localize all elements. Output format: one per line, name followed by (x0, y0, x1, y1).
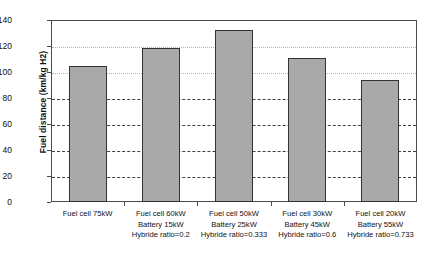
x-label-line: Battery 55kW (346, 220, 415, 231)
bars-layer (51, 20, 417, 202)
y-tick-label-100: 100 (0, 68, 12, 77)
x-label-line: Battery 15kW (126, 220, 195, 231)
y-tick-label-0: 0 (0, 198, 12, 207)
x-tick-mark-1 (124, 202, 125, 206)
x-label-line: Fuel cell 75kW (53, 209, 122, 220)
x-label-line: Fuel cell 50kW (199, 209, 268, 220)
x-label-line: Fuel cell 60kW (126, 209, 195, 220)
bar-chart-figure: Fuel distance (km/kg H2) 020406080100120… (0, 0, 434, 255)
x-label-5: Fuel cell 20kWBattery 55kWHybride ratio=… (344, 209, 417, 253)
x-label-line: Fuel cell 20kW (346, 209, 415, 220)
x-label-line: Battery 45kW (273, 220, 342, 231)
x-tick-mark-3 (271, 202, 272, 206)
y-tick-label-60: 60 (0, 120, 12, 129)
y-tick-label-80: 80 (0, 94, 12, 103)
y-tick-label-140: 140 (0, 16, 12, 25)
bar-2 (142, 48, 180, 202)
x-label-line: Fuel cell 30kW (273, 209, 342, 220)
bar-3 (215, 30, 253, 202)
x-label-line: Hybride ratio=0.333 (199, 230, 268, 241)
x-axis-labels: Fuel cell 75kWFuel cell 60kWBattery 15kW… (51, 209, 417, 253)
y-tick-mark-0 (47, 202, 51, 203)
x-label-line: Battery 25kW (199, 220, 268, 231)
x-label-1: Fuel cell 75kW (51, 209, 124, 253)
x-label-line: Hybride ratio=0.733 (346, 230, 415, 241)
bar-4 (288, 58, 326, 202)
bar-1 (69, 66, 107, 202)
x-tick-mark-2 (197, 202, 198, 206)
x-tick-mark-4 (344, 202, 345, 206)
y-tick-label-20: 20 (0, 172, 12, 181)
y-tick-label-40: 40 (0, 146, 12, 155)
x-label-4: Fuel cell 30kWBattery 45kWHybride ratio=… (271, 209, 344, 253)
x-label-line: Hybride ratio=0.6 (273, 230, 342, 241)
y-tick-label-120: 120 (0, 42, 12, 51)
x-label-line: Hybride ratio=0.2 (126, 230, 195, 241)
x-label-2: Fuel cell 60kWBattery 15kWHybride ratio=… (124, 209, 197, 253)
y-axis-title: Fuel distance (km/kg H2) (38, 12, 48, 192)
bar-5 (361, 80, 399, 202)
x-label-3: Fuel cell 50kWBattery 25kWHybride ratio=… (197, 209, 270, 253)
